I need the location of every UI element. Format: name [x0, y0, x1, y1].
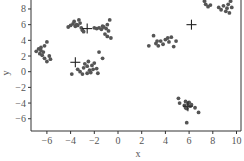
centroid-plus-icon — [70, 57, 80, 67]
data-point — [43, 56, 47, 60]
x-tick-label: 0 — [116, 135, 121, 146]
data-point — [166, 36, 170, 40]
data-point — [147, 44, 151, 48]
data-point — [167, 40, 171, 44]
data-point — [225, 6, 229, 10]
data-point — [101, 24, 105, 28]
data-point — [105, 35, 109, 39]
data-point — [108, 18, 112, 22]
data-point — [95, 67, 99, 71]
data-point — [92, 61, 96, 65]
data-point — [97, 50, 101, 54]
y-axis-ticks: 86420−2−4−6 — [15, 3, 31, 124]
data-point — [209, 3, 213, 7]
data-point — [155, 39, 159, 43]
data-point — [172, 45, 176, 49]
data-point — [174, 39, 178, 43]
data-point — [193, 106, 197, 110]
data-point — [197, 111, 201, 115]
data-point — [107, 29, 111, 33]
data-point — [178, 101, 182, 105]
data-point — [85, 71, 89, 75]
y-tick-label: 8 — [21, 3, 26, 14]
x-tick-label: −6 — [42, 135, 53, 146]
data-point — [82, 66, 86, 70]
x-axis-label: x — [136, 148, 141, 159]
y-tick-label: −2 — [15, 82, 26, 93]
x-tick-label: −2 — [89, 135, 100, 146]
data-point — [96, 71, 100, 75]
data-point — [169, 35, 173, 39]
data-point — [105, 23, 109, 27]
data-point — [226, 2, 230, 6]
y-tick-label: 4 — [21, 35, 26, 46]
data-point — [45, 40, 49, 44]
y-tick-label: −4 — [15, 98, 26, 109]
data-point — [227, 11, 231, 15]
data-point — [156, 44, 160, 48]
data-point — [81, 72, 85, 76]
data-point — [39, 45, 43, 49]
data-points — [34, 0, 233, 125]
data-point — [72, 20, 76, 24]
x-tick-label: 8 — [210, 135, 215, 146]
data-point — [76, 24, 80, 28]
data-point — [89, 71, 93, 75]
plot-frame — [31, 0, 241, 131]
y-tick-label: 6 — [21, 19, 26, 30]
data-point — [219, 8, 223, 12]
y-axis-label: y — [0, 71, 11, 76]
data-point — [109, 36, 113, 40]
data-point — [85, 64, 89, 68]
y-tick-label: −6 — [15, 113, 26, 124]
data-point — [159, 39, 163, 43]
data-point — [185, 121, 189, 125]
data-point — [70, 72, 74, 76]
x-tick-label: −4 — [65, 135, 76, 146]
x-tick-label: 2 — [139, 135, 144, 146]
data-point — [86, 60, 90, 64]
x-axis-ticks: −6−4−20246810 — [42, 131, 242, 146]
x-tick-label: 6 — [187, 135, 192, 146]
data-point — [49, 57, 53, 61]
data-point — [82, 30, 86, 34]
scatter-chart: −6−4−20246810 86420−2−4−6 x y — [0, 0, 244, 161]
data-point — [152, 34, 156, 38]
data-point — [177, 96, 181, 100]
y-tick-label: 2 — [21, 51, 26, 62]
data-point — [43, 44, 47, 48]
centroid-plus-icon — [186, 20, 196, 30]
data-point — [101, 56, 105, 60]
data-point — [222, 4, 226, 8]
x-tick-label: 10 — [232, 135, 242, 146]
x-tick-label: 4 — [163, 135, 168, 146]
data-point — [161, 42, 165, 46]
data-point — [45, 60, 49, 64]
data-point — [91, 67, 95, 71]
y-tick-label: 0 — [21, 66, 26, 77]
data-point — [230, 6, 234, 10]
data-point — [229, 0, 233, 3]
data-point — [41, 50, 45, 54]
